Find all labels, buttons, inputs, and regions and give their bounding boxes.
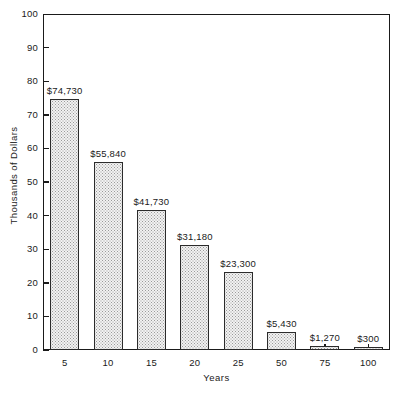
bar-value-label-25: $23,300 <box>198 258 278 269</box>
x-axis-title: Years <box>43 372 390 383</box>
x-tick-label: 15 <box>131 357 171 368</box>
bar-25 <box>224 272 253 350</box>
y-tick-mark <box>43 148 49 149</box>
bar-value-label-5: $74,730 <box>25 85 105 96</box>
y-tick-label: 60 <box>0 142 38 153</box>
x-tick-label: 20 <box>175 357 215 368</box>
y-tick-label: 90 <box>0 42 38 53</box>
x-tick-label: 50 <box>262 357 302 368</box>
bar-75 <box>310 346 339 350</box>
bar-10 <box>94 162 123 350</box>
y-tick-mark <box>43 249 49 250</box>
bar-value-label-50: $5,430 <box>242 318 322 329</box>
bar-chart: Thousands of Dollars 0102030405060708090… <box>0 0 410 395</box>
y-tick-label: 40 <box>0 210 38 221</box>
y-tick-mark <box>43 316 49 317</box>
y-tick-label: 30 <box>0 243 38 254</box>
bar-5 <box>50 99 79 350</box>
x-tick-label: 100 <box>348 357 388 368</box>
y-tick-mark <box>43 282 49 283</box>
x-tick-label: 5 <box>45 357 85 368</box>
y-tick-mark <box>43 181 49 182</box>
bar-100 <box>354 347 383 350</box>
y-tick-label: 70 <box>0 109 38 120</box>
y-tick-label: 100 <box>0 8 38 19</box>
bar-value-label-20: $31,180 <box>155 231 235 242</box>
y-tick-mark <box>43 349 49 350</box>
y-tick-label: 20 <box>0 277 38 288</box>
bar-value-label-10: $55,840 <box>68 148 148 159</box>
y-tick-mark <box>43 47 49 48</box>
x-tick-label: 10 <box>88 357 128 368</box>
x-tick-label: 25 <box>218 357 258 368</box>
y-tick-mark <box>43 81 49 82</box>
y-tick-label: 50 <box>0 176 38 187</box>
y-tick-label: 0 <box>0 344 38 355</box>
y-tick-mark <box>43 114 49 115</box>
bar-value-label-15: $41,730 <box>111 196 191 207</box>
x-tick-label: 75 <box>305 357 345 368</box>
bar-value-label-100: $300 <box>328 333 408 344</box>
y-tick-label: 10 <box>0 310 38 321</box>
y-tick-mark <box>43 215 49 216</box>
